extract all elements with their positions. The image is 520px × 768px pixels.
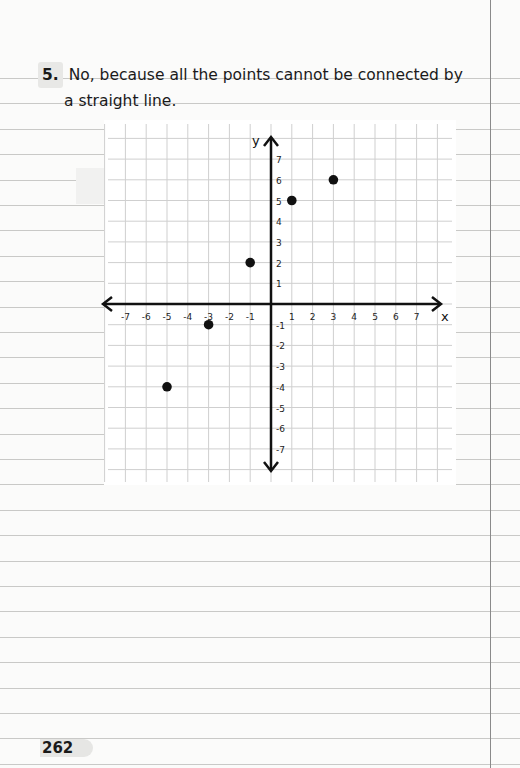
svg-text:7: 7 [414,312,420,322]
svg-text:-5: -5 [163,312,172,322]
data-point [287,196,297,206]
svg-text:-6: -6 [142,312,151,322]
svg-text:4: 4 [276,217,282,227]
svg-text:3: 3 [276,238,282,248]
svg-text:7: 7 [276,155,282,165]
data-point [162,382,172,392]
svg-text:-2: -2 [225,312,234,322]
svg-text:6: 6 [393,312,399,322]
svg-text:-4: -4 [276,383,285,393]
svg-text:1: 1 [276,279,282,289]
svg-text:5: 5 [372,312,378,322]
svg-text:-4: -4 [183,312,192,322]
svg-text:4: 4 [351,312,357,322]
svg-text:2: 2 [276,259,282,269]
data-point [329,175,339,185]
svg-text:5: 5 [276,197,282,207]
svg-text:6: 6 [276,176,282,186]
axes [103,137,441,471]
svg-text:x: x [441,309,449,324]
tick-labels: xy-7-6-5-4-3-2-112345677654321-1-2-3-4-5… [121,133,449,455]
data-point [204,320,214,330]
svg-text:-7: -7 [121,312,130,322]
page-number: 262 [40,739,93,757]
svg-text:3: 3 [331,312,337,322]
svg-text:-5: -5 [276,404,285,414]
svg-text:-6: -6 [276,424,285,434]
svg-text:-7: -7 [276,445,285,455]
svg-text:-2: -2 [276,341,285,351]
svg-text:1: 1 [289,312,295,322]
data-point [245,258,255,268]
svg-text:-1: -1 [276,321,285,331]
svg-text:-3: -3 [276,362,285,372]
svg-text:y: y [252,133,260,148]
svg-text:-1: -1 [246,312,255,322]
coordinate-plane: xy-7-6-5-4-3-2-112345677654321-1-2-3-4-5… [0,0,520,768]
svg-text:2: 2 [310,312,316,322]
